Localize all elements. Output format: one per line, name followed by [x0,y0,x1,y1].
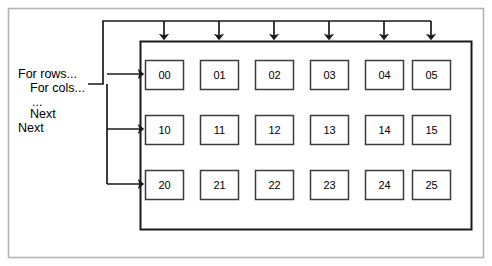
grid-cell: 20 [146,171,184,200]
grid-cell: 04 [366,61,404,90]
pseudocode-line-for-rows: For rows... [18,67,77,81]
grid-cell: 01 [201,61,239,90]
grid-cell-label: 03 [323,69,335,81]
pseudocode-line-next-outer: Next [18,121,44,135]
grid-cell-label: 12 [268,124,280,136]
grid-cell-label: 23 [323,179,335,191]
grid-cell: 11 [201,116,239,145]
grid-cell: 25 [413,171,451,200]
grid-cell-label: 22 [268,179,280,191]
grid-cell: 24 [366,171,404,200]
grid-cell-label: 10 [158,124,170,136]
grid-cell: 12 [256,116,294,145]
pseudocode-line-for-cols: For cols... [30,81,85,95]
grid-cell: 14 [366,116,404,145]
grid-cell: 05 [413,61,451,90]
grid-cell-label: 05 [425,69,437,81]
grid-cell: 02 [256,61,294,90]
grid-cell: 15 [413,116,451,145]
diagram-root: 00 01 02 03 04 05 [0,0,492,266]
grid-row-0: 00 01 02 03 04 05 [146,61,451,90]
grid-cell-label: 21 [213,179,225,191]
pseudocode-line-next-inner: Next [30,107,56,121]
grid-cell-label: 04 [378,69,390,81]
grid-cell-label: 02 [268,69,280,81]
row-iteration-arrows [107,74,141,184]
grid-cell: 10 [146,116,184,145]
grid-cell: 21 [201,171,239,200]
grid-row-2: 20 21 22 23 24 25 [146,171,451,200]
grid-cell: 03 [311,61,349,90]
grid-cell-label: 24 [378,179,390,191]
nested-loop-pseudocode: For rows... For cols... ... Next Next [18,67,85,135]
column-iteration-arrows [164,21,431,37]
grid-cell-label: 00 [158,69,170,81]
grid-cell-label: 14 [378,124,390,136]
diagram-canvas: 00 01 02 03 04 05 [0,0,492,266]
grid-row-1: 10 11 12 13 14 15 [146,116,451,145]
grid-cell-label: 11 [214,124,225,136]
grid-cell: 22 [256,171,294,200]
grid-cell-label: 25 [425,179,437,191]
grid-cell: 00 [146,61,184,90]
grid-cell-label: 01 [213,69,225,81]
grid-cell: 13 [311,116,349,145]
grid-cell-label: 15 [425,124,437,136]
grid-cell: 23 [311,171,349,200]
grid-cell-label: 13 [323,124,335,136]
grid-cell-label: 20 [158,179,170,191]
